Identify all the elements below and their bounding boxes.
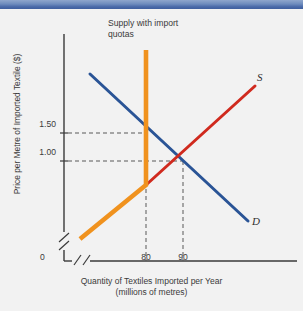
quota-supply-curve: [80, 50, 146, 239]
y-tick-label-100: 1.00: [22, 147, 56, 157]
slide-header-band: [0, 0, 303, 9]
y-axis-label: Price per Metre of Imported Textile ($): [12, 29, 22, 219]
x-tick-label-90: 90: [171, 252, 195, 262]
chart-figure: Supply with import quotas Price per Metr…: [0, 9, 303, 311]
demand-curve: [90, 74, 248, 221]
quota-title: Supply with import quotas: [108, 18, 194, 40]
supply-curve: [146, 86, 255, 185]
chart-canvas: [0, 9, 303, 311]
x-axis-label: Quantity of Textiles Imported per Year: [0, 276, 303, 286]
x-axis-break-icon: [74, 255, 90, 265]
y-tick-label-150: 1.50: [22, 119, 56, 129]
x-tick-label-80: 80: [134, 252, 158, 262]
origin-label: 0: [40, 252, 45, 262]
x-axis-label-sub: (millions of metres): [0, 287, 303, 297]
y-axis-break-icon: [59, 233, 69, 250]
supply-curve-label: S: [257, 72, 263, 82]
demand-curve-label: D: [252, 216, 260, 226]
